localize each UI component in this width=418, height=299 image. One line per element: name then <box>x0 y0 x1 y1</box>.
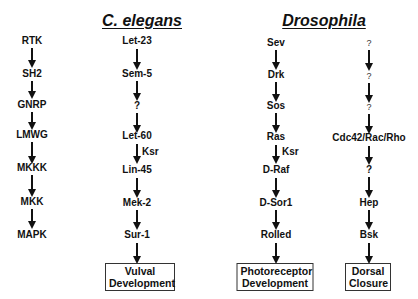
node-rtk: RTK <box>22 36 43 46</box>
node-mapk: MAPK <box>17 230 46 240</box>
side-label-ksr: Ksr <box>282 146 299 157</box>
node-unknown: ? <box>134 101 140 111</box>
node-d-sor1: D-Sor1 <box>260 198 293 208</box>
node-d-raf: D-Raf <box>263 165 290 175</box>
title-drosophila: Drosophila <box>282 12 366 30</box>
node-unknown: ? <box>366 72 371 81</box>
outcome-vulval-development: Vulval Development <box>105 263 175 291</box>
side-label-ksr: Ksr <box>142 146 159 157</box>
node-bsk: Bsk <box>360 230 378 240</box>
outcome-dorsal-closure: Dorsal Closure <box>345 263 391 291</box>
node-rolled: Rolled <box>261 230 292 240</box>
node-mek-2: Mek-2 <box>123 198 151 208</box>
outcome-line: Photoreceptor <box>241 265 310 277</box>
node-ras: Ras <box>267 132 285 142</box>
node-lin-45: Lin-45 <box>122 165 151 175</box>
outcome-line: Development <box>241 277 310 289</box>
node-lmwg: LMWG <box>16 130 48 140</box>
outcome-line: Vulval <box>109 265 171 277</box>
node-unknown: ? <box>366 103 371 112</box>
node-sem-5: Sem-5 <box>122 69 152 79</box>
outcome-line: Closure <box>349 277 387 289</box>
node-hep: Hep <box>360 198 379 208</box>
outcome-line: Dorsal <box>349 265 387 277</box>
node-unknown: ? <box>366 165 372 175</box>
title-c-elegans: C. elegans <box>102 12 182 30</box>
node-gnrp: GNRP <box>18 100 47 110</box>
node-mkkk: MKKK <box>17 163 47 173</box>
outcome-line: Development <box>109 277 171 289</box>
node-sev: Sev <box>267 38 285 48</box>
node-drk: Drk <box>268 70 285 80</box>
node-unknown: ? <box>366 39 371 48</box>
outcome-photoreceptor-development: Photoreceptor Development <box>237 263 314 291</box>
node-let-23: Let-23 <box>122 36 151 46</box>
node-sos: Sos <box>267 101 285 111</box>
node-sur-1: Sur-1 <box>124 230 150 240</box>
node-mkk: MKK <box>21 197 44 207</box>
node-cdc42-rac-rho: Cdc42/Rac/Rho <box>332 133 405 143</box>
node-sh2: SH2 <box>22 69 41 79</box>
